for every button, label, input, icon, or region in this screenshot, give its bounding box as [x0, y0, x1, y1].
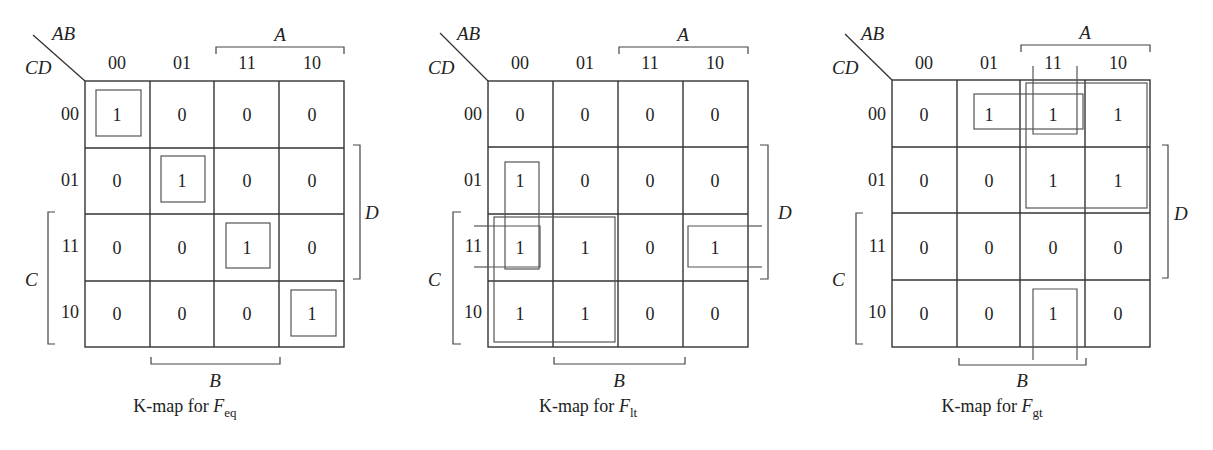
bracket-label-a: A [1077, 22, 1091, 43]
kmap-grid [85, 81, 344, 347]
row-code: 11 [869, 236, 886, 256]
cell-value: 1 [711, 238, 720, 258]
col-code: 10 [303, 53, 321, 73]
bracket-d [353, 145, 360, 279]
cell-value: 0 [985, 238, 994, 258]
bracket-b [554, 357, 685, 364]
cell-value: 0 [308, 238, 317, 258]
bracket-d [760, 145, 768, 279]
row-code: 01 [61, 170, 79, 190]
bracket-label-a: A [272, 24, 286, 45]
bracket-label-b: B [613, 370, 625, 391]
col-code: 00 [915, 53, 933, 73]
cell-value: 0 [243, 171, 252, 191]
kmap-grid [488, 81, 748, 347]
col-code: 00 [511, 53, 529, 73]
row-code: 00 [464, 104, 482, 124]
cell-value: 0 [516, 105, 525, 125]
bracket-label-a: A [675, 24, 689, 45]
var-brackets: A D C B [428, 24, 792, 391]
cell-value: 1 [516, 304, 525, 324]
kmap-figure: AB CD 00 01 11 10 00 01 11 10 1 0 0 0 0 [0, 0, 1213, 450]
cell-value: 0 [646, 171, 655, 191]
col-code: 11 [1044, 53, 1061, 73]
bracket-a [216, 47, 344, 54]
cell-value: 0 [113, 238, 122, 258]
cell-value: 0 [1114, 304, 1123, 324]
cell-value: 0 [178, 304, 187, 324]
cell-value: 0 [646, 238, 655, 258]
bracket-label-b: B [209, 370, 221, 391]
bracket-label-d: D [364, 202, 379, 223]
col-code: 10 [1109, 53, 1127, 73]
cell-value: 0 [1049, 238, 1058, 258]
col-code: 11 [238, 53, 255, 73]
cell-value: 1 [581, 238, 590, 258]
bracket-a [1021, 45, 1150, 52]
cell-value: 0 [1114, 238, 1123, 258]
group-box [1026, 83, 1147, 208]
cell-value: 0 [711, 105, 720, 125]
group-wrap-left [488, 226, 540, 267]
bracket-b [959, 358, 1086, 365]
bracket-c [453, 212, 461, 344]
row-code: 01 [868, 170, 886, 190]
bracket-d [1162, 145, 1168, 278]
cell-value: 1 [1114, 105, 1123, 125]
kmap-cells: 0 1 1 1 0 0 1 1 0 0 0 0 0 0 1 0 [920, 105, 1123, 324]
cell-value: 1 [985, 105, 994, 125]
row-code: 11 [465, 236, 482, 256]
row-code: 01 [464, 170, 482, 190]
col-code: 10 [706, 53, 724, 73]
kmap-caption: K-map for Feq [133, 396, 237, 420]
bracket-label-c: C [428, 269, 441, 290]
cell-value: 0 [243, 105, 252, 125]
cell-value: 1 [516, 171, 525, 191]
cell-value: 0 [920, 105, 929, 125]
cell-value: 1 [516, 238, 525, 258]
bracket-label-c: C [832, 269, 845, 290]
kmap-grid [892, 80, 1150, 347]
cell-value: 1 [178, 171, 187, 191]
cell-value: 0 [243, 304, 252, 324]
cell-value: 0 [308, 171, 317, 191]
cell-value: 0 [711, 171, 720, 191]
cell-value: 0 [920, 304, 929, 324]
cell-value: 1 [113, 105, 122, 125]
col-var-label: AB [859, 23, 885, 44]
bracket-label-b: B [1016, 370, 1028, 391]
bracket-c [856, 213, 863, 344]
col-var-label: AB [50, 23, 76, 44]
bracket-b [151, 357, 280, 364]
row-var-label: CD [25, 57, 52, 78]
cell-value: 1 [1114, 171, 1123, 191]
cell-value: 1 [581, 304, 590, 324]
row-code: 11 [62, 236, 79, 256]
bracket-c [48, 212, 55, 344]
kmap-caption: K-map for Flt [539, 396, 638, 420]
bracket-label-d: D [1173, 203, 1188, 224]
bracket-label-c: C [25, 269, 38, 290]
col-code: 01 [576, 53, 594, 73]
col-code: 01 [980, 53, 998, 73]
cell-value: 1 [1049, 105, 1058, 125]
cell-value: 1 [308, 304, 317, 324]
col-var-label: AB [455, 23, 481, 44]
cell-value: 1 [243, 238, 252, 258]
cell-value: 0 [985, 171, 994, 191]
cell-value: 1 [1049, 304, 1058, 324]
cell-value: 0 [920, 171, 929, 191]
group-box [494, 217, 615, 342]
kmap-groupings [96, 90, 336, 336]
kmap-gt: AB CD 00 01 11 10 00 01 11 10 0 1 1 1 0 … [832, 22, 1188, 420]
row-code: 10 [61, 302, 79, 322]
cell-value: 0 [920, 238, 929, 258]
cell-value: 0 [178, 238, 187, 258]
kmap-caption: K-map for Fgt [941, 396, 1042, 420]
var-brackets: A D C B [832, 22, 1188, 391]
col-code: 11 [641, 53, 658, 73]
row-code: 00 [868, 104, 886, 124]
cell-value: 0 [711, 304, 720, 324]
row-var-label: CD [832, 57, 859, 78]
bracket-label-d: D [777, 202, 792, 223]
